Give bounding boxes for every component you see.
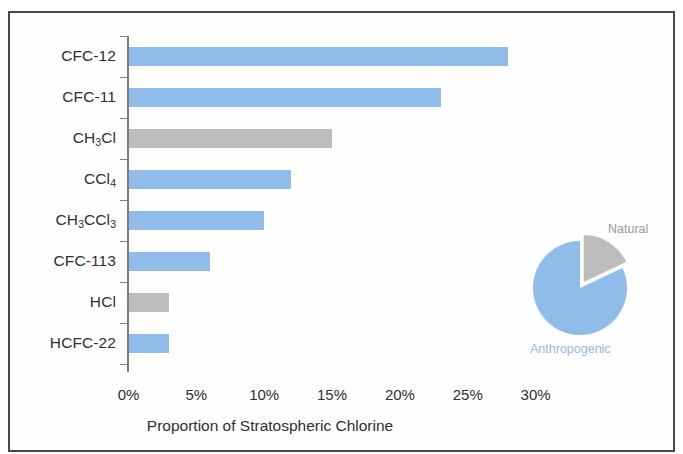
- y-axis-tick: [120, 118, 127, 119]
- bar-hcfc-22: [129, 334, 170, 353]
- y-axis-label-cfc-12: CFC-12: [8, 47, 116, 65]
- x-axis-tick-labels: 0%5%10%15%20%25%30%: [0, 386, 683, 408]
- y-axis-tick: [120, 200, 127, 201]
- bar-ccl4: [129, 170, 292, 189]
- bar-cfc-11: [129, 88, 441, 107]
- y-axis-label-cfc-11: CFC-11: [8, 88, 116, 106]
- pie-slices: [520, 230, 670, 350]
- pie-label-anthropogenic: Anthropogenic: [530, 342, 611, 356]
- y-axis-label-ch3cl: CH3Cl: [8, 129, 116, 148]
- bar-ch3ccl3: [129, 211, 265, 230]
- bar-ch3cl: [129, 129, 333, 148]
- y-axis-label-hcl: HCl: [8, 293, 116, 311]
- pie-label-natural: Natural: [608, 222, 648, 236]
- y-axis-label-cfc-113: CFC-113: [8, 252, 116, 270]
- y-axis-category-row: HCFC-22: [8, 325, 116, 366]
- y-axis-tick: [120, 364, 127, 365]
- bar-cfc-113: [129, 252, 210, 271]
- y-axis-category-row: CFC-11: [8, 79, 116, 120]
- x-axis-tick-label: 10%: [249, 386, 279, 403]
- y-axis-category-row: CCl4: [8, 161, 116, 202]
- y-axis-tick: [120, 77, 127, 78]
- y-axis-tick: [120, 159, 127, 160]
- x-axis-tick-label: 15%: [317, 386, 347, 403]
- y-axis-line: [127, 36, 129, 372]
- x-axis-tick-label: 30%: [521, 386, 551, 403]
- x-axis-tick-label: 20%: [385, 386, 415, 403]
- y-axis-label-ccl4: CCl4: [8, 170, 116, 189]
- bar-hcl: [129, 293, 170, 312]
- bar-cfc-12: [129, 47, 509, 66]
- y-axis-category-row: HCl: [8, 284, 116, 325]
- x-axis-tick-label: 25%: [453, 386, 483, 403]
- bar-chart: CFC-12CFC-11CH3ClCCl4CH3CCl3CFC-113HClHC…: [0, 0, 683, 454]
- y-axis-category-row: CFC-12: [8, 38, 116, 79]
- y-axis-label-ch3ccl3: CH3CCl3: [8, 211, 116, 230]
- y-axis-category-labels: CFC-12CFC-11CH3ClCCl4CH3CCl3CFC-113HClHC…: [8, 38, 116, 366]
- inset-pie-chart: Natural Anthropogenic: [520, 222, 670, 372]
- x-axis-title: Proportion of Stratospheric Chlorine: [0, 417, 540, 435]
- y-axis-tick: [120, 241, 127, 242]
- y-axis-label-hcfc-22: HCFC-22: [8, 334, 116, 352]
- y-axis-category-row: CH3Cl: [8, 120, 116, 161]
- x-axis-tick-label: 0%: [118, 386, 140, 403]
- y-axis-tick: [120, 36, 127, 37]
- y-axis-category-row: CH3CCl3: [8, 202, 116, 243]
- x-axis-tick-label: 5%: [186, 386, 208, 403]
- y-axis-category-row: CFC-113: [8, 243, 116, 284]
- y-axis-tick: [120, 282, 127, 283]
- y-axis-tick: [120, 323, 127, 324]
